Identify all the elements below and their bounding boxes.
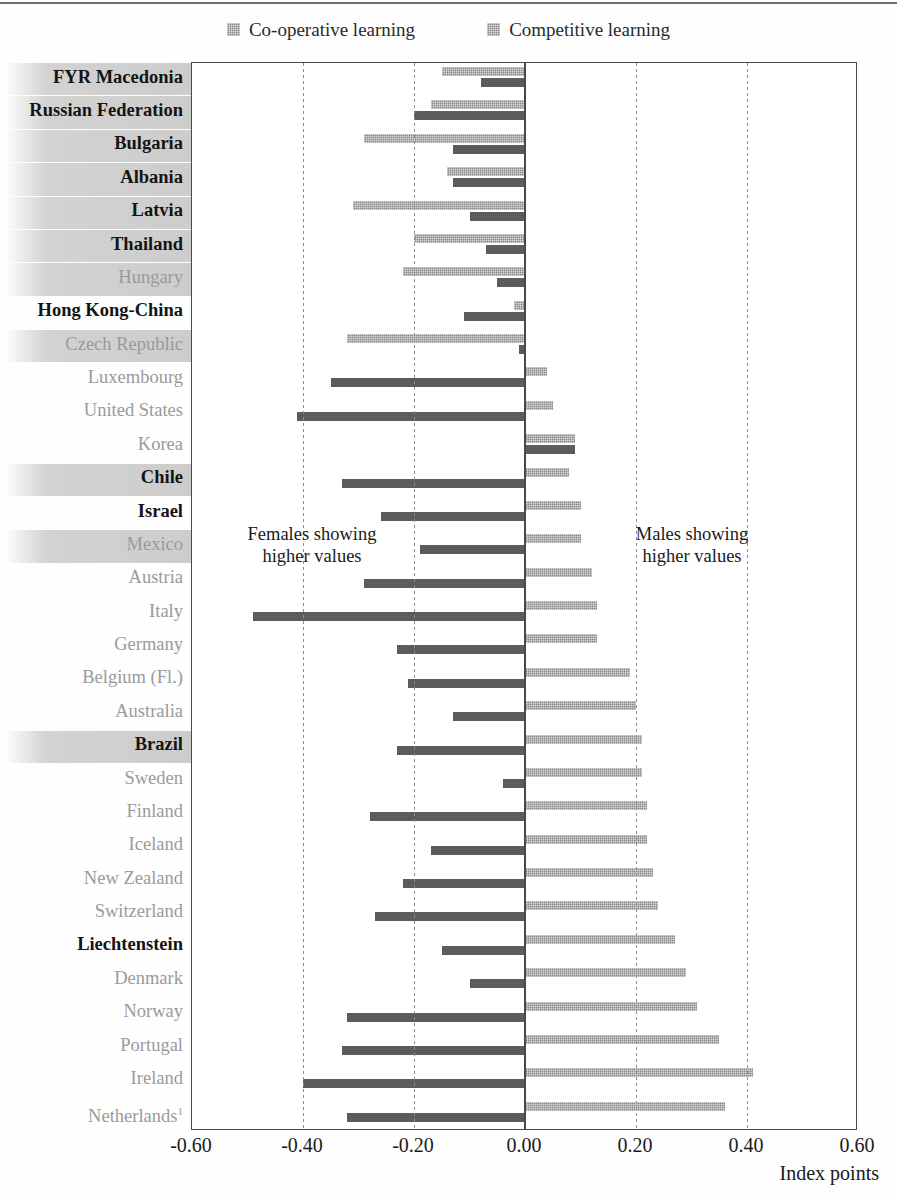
annotation-females-higher-line2: higher values <box>212 545 412 567</box>
axis-tick-0.20: 0.20 <box>618 1134 653 1156</box>
bar-co-operative-learning <box>253 612 525 621</box>
bar-competitive-learning <box>347 334 525 343</box>
bar-co-operative-learning <box>408 679 525 688</box>
bar-competitive-learning <box>525 1068 753 1077</box>
category-axis-labels: FYR MacedoniaRussian FederationBulgariaA… <box>0 62 191 1130</box>
bar-competitive-learning <box>525 968 686 977</box>
bar-co-operative-learning <box>342 479 525 488</box>
bar-co-operative-learning <box>442 946 525 955</box>
bar-competitive-learning <box>525 835 647 844</box>
bar-competitive-learning <box>525 601 597 610</box>
category-label-united-states: United States <box>84 401 183 420</box>
category-label-italy: Italy <box>149 602 183 621</box>
bar-competitive-learning <box>525 701 636 710</box>
category-label-israel: Israel <box>138 502 183 521</box>
bar-co-operative-learning <box>420 545 525 554</box>
category-label-korea: Korea <box>138 435 183 454</box>
category-label-norway: Norway <box>123 1002 183 1021</box>
bar-co-operative-learning <box>331 378 525 387</box>
legend-swatch-co-operative-icon <box>227 23 240 36</box>
axis-tick--0.20: -0.20 <box>392 1134 434 1156</box>
bar-competitive-learning <box>447 167 525 176</box>
category-label-portugal: Portugal <box>120 1036 183 1055</box>
legend-label-co-operative-learning: Co-operative learning <box>249 20 415 39</box>
footnote-marker: 1 <box>178 1105 184 1117</box>
category-label-liechtenstein: Liechtenstein <box>77 935 183 954</box>
bar-co-operative-learning <box>503 779 525 788</box>
bar-co-operative-learning <box>453 178 525 187</box>
bar-co-operative-learning <box>375 912 525 921</box>
axis-tick--0.60: -0.60 <box>170 1134 212 1156</box>
category-label-switzerland: Switzerland <box>95 902 183 921</box>
axis-tick--0.40: -0.40 <box>281 1134 323 1156</box>
bar-co-operative-learning <box>364 579 525 588</box>
bar-competitive-learning <box>525 634 597 643</box>
category-label-thailand: Thailand <box>111 235 183 254</box>
chart-legend: Co-operative learning Competitive learni… <box>0 16 897 42</box>
bar-competitive-learning <box>525 401 553 410</box>
category-label-finland: Finland <box>126 802 183 821</box>
bar-competitive-learning <box>525 1002 697 1011</box>
bar-co-operative-learning <box>397 746 525 755</box>
bar-co-operative-learning <box>370 812 525 821</box>
bar-competitive-learning <box>525 501 581 510</box>
category-label-czech-republic: Czech Republic <box>65 335 183 354</box>
bar-co-operative-learning <box>481 78 525 87</box>
bar-co-operative-learning <box>486 245 525 254</box>
bar-co-operative-learning <box>464 312 525 321</box>
bar-co-operative-learning <box>453 712 525 721</box>
bar-competitive-learning <box>525 568 592 577</box>
category-label-belgium-fl: Belgium (Fl.) <box>82 668 183 687</box>
bar-competitive-learning <box>525 901 658 910</box>
bar-competitive-learning <box>414 234 525 243</box>
bar-co-operative-learning <box>414 111 525 120</box>
category-label-australia: Australia <box>115 702 183 721</box>
bar-competitive-learning <box>525 1035 719 1044</box>
page-top-rule <box>0 2 897 4</box>
bar-competitive-learning <box>525 935 675 944</box>
axis-tick-0.40: 0.40 <box>729 1134 764 1156</box>
annotation-females-higher-line1: Females showing <box>212 523 412 545</box>
bar-co-operative-learning <box>453 145 525 154</box>
gridline-0.2 <box>636 63 637 1129</box>
category-label-albania: Albania <box>120 168 183 187</box>
legend-label-competitive-learning: Competitive learning <box>509 20 670 39</box>
bar-competitive-learning <box>525 668 630 677</box>
bar-co-operative-learning <box>347 1113 525 1122</box>
category-label-sweden: Sweden <box>124 769 183 788</box>
category-label-austria: Austria <box>129 568 183 587</box>
legend-item-co-operative-learning: Co-operative learning <box>227 20 415 39</box>
axis-tick-0.60: 0.60 <box>840 1134 875 1156</box>
annotation-males-higher: Males showinghigher values <box>592 523 792 567</box>
category-label-netherlands: Netherlands1 <box>88 1102 183 1126</box>
bar-co-operative-learning <box>403 879 525 888</box>
annotation-females-higher: Females showinghigher values <box>212 523 412 567</box>
annotation-males-higher-line1: Males showing <box>592 523 792 545</box>
category-label-chile: Chile <box>141 468 183 487</box>
bar-competitive-learning <box>525 434 575 443</box>
bar-competitive-learning <box>525 1102 725 1111</box>
annotation-males-higher-line2: higher values <box>592 545 792 567</box>
bar-competitive-learning <box>525 768 642 777</box>
category-label-hong-kong-china: Hong Kong-China <box>38 301 183 320</box>
bar-co-operative-learning <box>342 1046 525 1055</box>
category-label-fyr-macedonia: FYR Macedonia <box>53 68 183 87</box>
bar-competitive-learning <box>525 534 581 543</box>
category-label-denmark: Denmark <box>114 969 183 988</box>
bar-co-operative-learning <box>431 846 525 855</box>
chart-plot-area: Females showinghigher valuesMales showin… <box>191 62 857 1130</box>
category-label-luxembourg: Luxembourg <box>88 368 183 387</box>
bar-co-operative-learning <box>347 1013 525 1022</box>
bar-competitive-learning <box>525 367 547 376</box>
bar-co-operative-learning <box>525 445 575 454</box>
axis-title: Index points <box>780 1162 879 1184</box>
category-label-hungary: Hungary <box>118 268 183 287</box>
bar-competitive-learning <box>353 201 525 210</box>
category-label-russian-federation: Russian Federation <box>29 101 183 120</box>
category-label-iceland: Iceland <box>129 835 183 854</box>
zero-line <box>524 63 526 1129</box>
category-label-germany: Germany <box>114 635 183 654</box>
bar-co-operative-learning <box>470 979 526 988</box>
bar-co-operative-learning <box>397 645 525 654</box>
axis-tick-0.00: 0.00 <box>507 1134 542 1156</box>
